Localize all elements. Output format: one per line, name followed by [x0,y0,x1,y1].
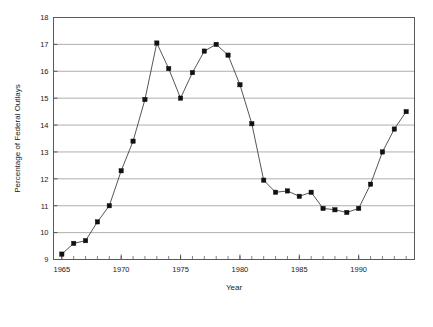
data-point-marker [356,206,360,210]
y-tick-label: 15 [40,94,48,103]
data-point-marker [226,53,230,57]
data-point-marker [309,190,313,194]
data-point-marker [166,66,170,70]
data-point-marker [321,206,325,210]
y-tick-label: 10 [40,228,48,237]
data-point-marker [250,122,254,126]
data-point-marker [202,49,206,53]
data-point-marker [60,252,64,256]
data-point-marker [143,97,147,101]
x-tick-label: 1970 [113,265,130,274]
data-point-marker [404,109,408,113]
plot-frame [54,18,415,260]
x-tick-label: 1990 [350,265,367,274]
data-point-marker [238,83,242,87]
y-tick-label: 13 [40,148,48,157]
x-tick-label: 1985 [291,265,308,274]
minor-xticks-group [62,256,406,260]
y-tick-label: 14 [40,121,48,130]
data-point-marker [285,189,289,193]
y-axis-title: Percentage of Federal Outlays [13,84,22,193]
data-point-marker [345,210,349,214]
data-point-marker [214,42,218,46]
data-series-line [62,43,406,254]
data-point-markers [60,41,409,256]
data-point-marker [83,238,87,242]
x-tick-label: 1980 [232,265,249,274]
federal-outlays-line-chart: 196519701975198019851990 910111213141516… [0,0,433,327]
data-point-marker [368,182,372,186]
data-point-marker [71,241,75,245]
y-tick-label: 9 [44,255,48,264]
x-tick-label: 1975 [172,265,189,274]
data-point-marker [95,220,99,224]
data-point-marker [131,139,135,143]
data-point-marker [380,150,384,154]
y-tick-label: 16 [40,67,48,76]
data-point-marker [190,70,194,74]
data-point-marker [261,178,265,182]
y-axis-tick-labels: 9101112131415161718 [40,13,48,264]
data-point-marker [333,208,337,212]
y-tick-label: 12 [40,175,48,184]
data-point-marker [107,204,111,208]
x-axis-tick-labels: 196519701975198019851990 [53,265,367,274]
data-point-marker [178,96,182,100]
x-axis-title: Year [226,283,243,292]
y-tick-label: 17 [40,40,48,49]
data-point-marker [119,169,123,173]
data-point-marker [392,127,396,131]
data-point-marker [273,190,277,194]
chart-container: 196519701975198019851990 910111213141516… [0,0,433,327]
y-tick-label: 18 [40,13,48,22]
data-point-marker [155,41,159,45]
data-point-marker [297,194,301,198]
y-tick-label: 11 [41,202,49,211]
x-tick-label: 1965 [53,265,70,274]
